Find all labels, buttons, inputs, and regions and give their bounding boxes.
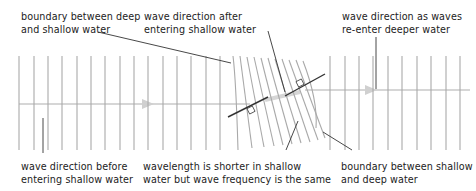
label-line: water but wave frequency is the same <box>143 173 331 186</box>
label-line: wave direction before <box>21 160 133 173</box>
label-boundary-shallow-to-deep: boundary between shallow and deep water <box>341 160 473 186</box>
label-wavelength-shorter: wavelength is shorter in shallow water b… <box>143 160 331 186</box>
deep-water-wavefronts-right <box>330 56 460 150</box>
arrow-head-icon <box>365 85 377 95</box>
label-boundary-deep-to-shallow: boundary between deep and shallow water <box>21 10 140 36</box>
label-direction-reenter-deeper: wave direction as waves re-enter deeper … <box>342 10 462 36</box>
label-line: wavelength is shorter in shallow <box>143 160 331 173</box>
label-line: entering shallow water <box>21 173 133 186</box>
label-line: and deep water <box>341 173 473 186</box>
leader-lines <box>43 31 376 153</box>
label-line: boundary between shallow <box>341 160 473 173</box>
label-direction-before-entering: wave direction before entering shallow w… <box>21 160 133 186</box>
label-line: wave direction as waves <box>342 10 462 23</box>
label-line: entering shallow water <box>144 23 256 36</box>
label-direction-after-entering: wave direction after entering shallow wa… <box>144 10 256 36</box>
label-line: and shallow water <box>21 23 140 36</box>
label-line: wave direction after <box>144 10 256 23</box>
label-line: re-enter deeper water <box>342 23 462 36</box>
label-line: boundary between deep <box>21 10 140 23</box>
